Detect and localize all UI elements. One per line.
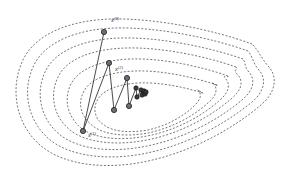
iterate-point-6: [134, 86, 138, 90]
iterate-point-1: [80, 128, 85, 133]
iterate-point-2: [106, 60, 111, 65]
iterate-point-0: [101, 29, 106, 34]
iterate-point-12: [144, 90, 148, 94]
contour-plot-figure: x(0)x(1)x(2): [0, 0, 283, 178]
iterate-point-5: [126, 103, 131, 108]
iterate-point-7: [135, 95, 139, 99]
plot-canvas: x(0)x(1)x(2): [0, 0, 283, 178]
iterate-point-4: [124, 75, 129, 80]
iterate-point-3: [111, 107, 116, 112]
